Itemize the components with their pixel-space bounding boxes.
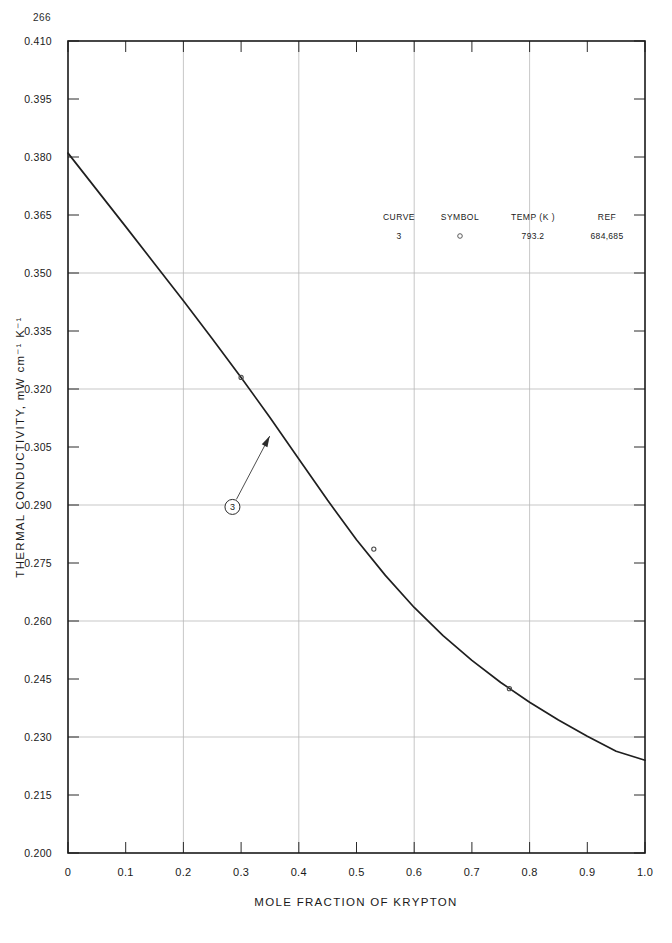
y-axis-tick-label: 0.305: [24, 441, 52, 453]
data-point-markers: [239, 375, 512, 690]
legend-header-temp: TEMP (K ): [511, 212, 555, 222]
legend-header-symbol: SYMBOL: [441, 212, 479, 222]
y-axis-tick-label: 0.410: [24, 35, 52, 47]
x-axis-tick-label: 0.2: [175, 866, 191, 878]
legend-cell-temp: 793.2: [522, 231, 545, 241]
legend-header-curve: CURVE: [383, 212, 415, 222]
y-axis-tick-label: 0.260: [24, 615, 52, 627]
y-axis-tick-label: 0.395: [24, 93, 52, 105]
legend-header-ref: REF: [598, 212, 617, 222]
x-axis-tick-label: 0.5: [348, 866, 364, 878]
y-axis-tick-labels: 0.2000.2150.2300.2450.2600.2750.2900.305…: [24, 35, 52, 859]
y-axis-tick-label: 0.335: [24, 325, 52, 337]
y-axis-tick-label: 0.365: [24, 209, 52, 221]
thermal-conductivity-chart: 0.2000.2150.2300.2450.2600.2750.2900.305…: [0, 0, 672, 943]
y-axis-tick-label: 0.380: [24, 151, 52, 163]
y-axis-title: THERMAL CONDUCTIVITY, mW cm⁻¹ K⁻¹: [14, 316, 26, 577]
y-axis-tick-label: 0.245: [24, 673, 52, 685]
y-axis-tick-label: 0.200: [24, 847, 52, 859]
y-axis-tick-label: 0.320: [24, 383, 52, 395]
x-axis-tick-label: 0: [65, 866, 71, 878]
x-axis-tick-label: 0.6: [406, 866, 422, 878]
x-axis-title: MOLE FRACTION OF KRYPTON: [254, 896, 457, 908]
chart-svg: 0.2000.2150.2300.2450.2600.2750.2900.305…: [0, 0, 672, 943]
y-axis-tick-label: 0.215: [24, 789, 52, 801]
y-axis-tick-label: 0.350: [24, 267, 52, 279]
x-axis-tick-label: 1.0: [637, 866, 653, 878]
legend-cell-curve: 3: [396, 231, 401, 241]
plot-frame: [68, 41, 645, 853]
x-axis-tick-labels: 00.10.20.30.40.50.60.70.80.91.0: [65, 866, 653, 878]
y-axis-tick-label: 0.230: [24, 731, 52, 743]
y-axis-tick-label: 0.290: [24, 499, 52, 511]
x-axis-tick-label: 0.3: [233, 866, 249, 878]
y-axis-tick-label: 0.275: [24, 557, 52, 569]
x-axis-tick-label: 0.8: [521, 866, 537, 878]
callout-arrowhead: [262, 436, 270, 447]
legend-table: CURVESYMBOLTEMP (K )REF3793.2684,685: [383, 212, 623, 241]
legend-cell-ref: 684,685: [591, 231, 624, 241]
x-axis-tick-label: 0.1: [118, 866, 134, 878]
legend-symbol-open-circle: [458, 234, 463, 239]
curve-callout: 3: [225, 436, 270, 514]
axis-ticks: [68, 41, 645, 853]
gridlines: [68, 41, 645, 853]
x-axis-tick-label: 0.7: [464, 866, 480, 878]
callout-label: 3: [230, 502, 235, 512]
x-axis-tick-label: 0.4: [291, 866, 307, 878]
curve-line-3: [68, 153, 645, 760]
x-axis-tick-label: 0.9: [579, 866, 595, 878]
data-point-marker: [372, 547, 376, 551]
curve-series: [68, 153, 645, 760]
